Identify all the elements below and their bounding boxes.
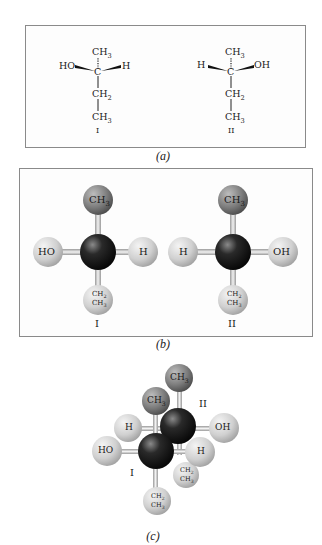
c-I-bottom-2: CH3 (151, 501, 165, 510)
caption-c: (c) (146, 529, 159, 544)
c-I-back-h: H (125, 422, 133, 432)
c-I-left: HO (98, 445, 113, 455)
c-II-bottom-2: CH3 (180, 475, 194, 484)
c-I-top: CH3 (147, 395, 166, 407)
c-II-right: OH (215, 422, 230, 432)
c-I-label: I (130, 467, 134, 478)
c-II-front-h: H (197, 446, 205, 456)
c-II-top: CH3 (170, 372, 189, 384)
c-I-bottom-1: CH2 (151, 492, 165, 501)
c-II-bottom-1: CH2 (180, 466, 194, 475)
c-II-label: II (199, 398, 207, 409)
panel-c-labels: CH3 CH3 II H OH HO H I CH2 CH3 CH2 CH3 (0, 0, 322, 545)
